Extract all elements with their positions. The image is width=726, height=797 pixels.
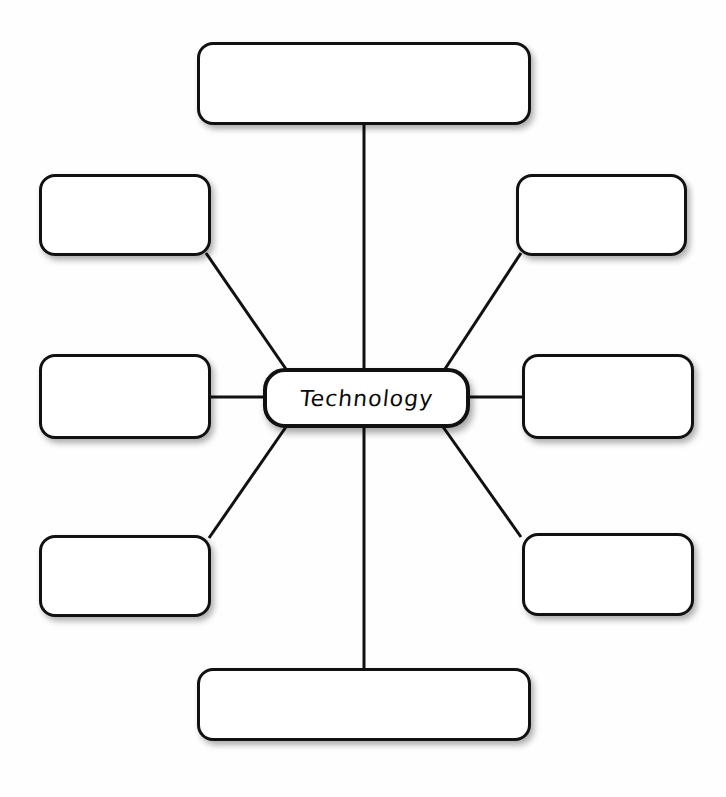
branch-box-bottom-left[interactable] — [39, 535, 211, 617]
branch-box-bottom-right[interactable] — [522, 533, 694, 616]
connector-top-left — [206, 253, 288, 372]
center-node-label: Technology — [299, 386, 435, 411]
connector-top-right — [443, 253, 521, 372]
connector-bottom-left — [209, 424, 288, 538]
center-node[interactable]: Technology — [263, 368, 470, 428]
branch-box-mid-left[interactable] — [39, 354, 211, 439]
branch-box-top-right[interactable] — [516, 174, 687, 256]
branch-box-bottom[interactable] — [197, 668, 531, 741]
connector-bottom-right — [441, 424, 521, 537]
branch-box-top-left[interactable] — [39, 174, 211, 256]
branch-box-mid-right[interactable] — [522, 354, 694, 439]
concept-map-canvas: Technology — [0, 0, 726, 797]
branch-box-top[interactable] — [197, 42, 531, 125]
